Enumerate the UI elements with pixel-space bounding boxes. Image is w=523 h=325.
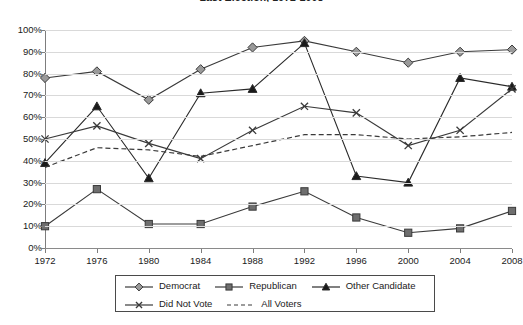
gridline — [45, 95, 512, 96]
x-axis-tick — [304, 249, 305, 253]
y-axis-tick — [40, 95, 45, 96]
x-axis-tick-label: 2004 — [440, 255, 480, 266]
gridline — [45, 139, 512, 140]
legend-triangle-marker-icon — [311, 279, 341, 291]
x-axis-tick-label: 1972 — [25, 255, 65, 266]
legend-row: Did Not VoteAll Voters — [116, 294, 434, 312]
gridline — [45, 183, 512, 184]
legend-label: Other Candidate — [346, 280, 416, 291]
series-democrat — [40, 36, 516, 104]
y-axis-tick-label: 60% — [2, 111, 42, 122]
gridline — [45, 248, 512, 249]
x-axis-tick — [201, 249, 202, 253]
y-axis-tick-label: 20% — [2, 198, 42, 209]
y-axis-labels: 100%90%80%70%60%50%40%30%20%10%0% — [0, 30, 42, 249]
y-axis-tick — [40, 204, 45, 205]
chart-container: Last Election, 1972-2008 100%90%80%70%60… — [0, 0, 523, 325]
x-axis-tick — [408, 249, 409, 253]
legend-item-other-candidate[interactable]: Other Candidate — [311, 279, 416, 291]
y-axis-tick-label: 50% — [2, 133, 42, 144]
series-did-not-vote — [41, 85, 515, 162]
y-axis-tick — [40, 117, 45, 118]
plot-area — [45, 30, 512, 248]
gridline — [45, 161, 512, 162]
y-axis-tick-label: 40% — [2, 155, 42, 166]
x-axis-tick-label: 1996 — [336, 255, 376, 266]
x-axis-tick-label: 2008 — [492, 255, 523, 266]
y-axis-tick-label: 70% — [2, 89, 42, 100]
series-other-candidate — [41, 39, 517, 186]
x-axis-tick-label: 1988 — [233, 255, 273, 266]
gridline — [45, 74, 512, 75]
legend-diamond-marker-icon — [124, 279, 154, 291]
y-axis-tick-label: 90% — [2, 46, 42, 57]
legend-item-democrat[interactable]: Democrat — [124, 279, 200, 291]
y-axis-tick — [40, 161, 45, 162]
legend-dashed-line-icon — [226, 297, 256, 309]
y-axis-tick-label: 30% — [2, 177, 42, 188]
series-all-voters — [45, 132, 512, 167]
y-axis-tick — [40, 183, 45, 184]
x-axis-tick — [97, 249, 98, 253]
x-axis-tick-label: 2000 — [388, 255, 428, 266]
y-axis-tick — [40, 226, 45, 227]
series-republican — [41, 186, 515, 237]
y-axis-tick — [40, 139, 45, 140]
gridline — [45, 117, 512, 118]
legend-item-did-not-vote[interactable]: Did Not Vote — [124, 297, 212, 309]
legend-label: Democrat — [159, 280, 200, 291]
x-axis-tick-label: 1980 — [129, 255, 169, 266]
gridline — [45, 52, 512, 53]
x-axis-tick — [253, 249, 254, 253]
y-axis-tick-label: 10% — [2, 220, 42, 231]
x-axis-tick — [45, 249, 46, 253]
y-axis-tick — [40, 248, 45, 249]
y-axis-tick-label: 80% — [2, 68, 42, 79]
gridline — [45, 204, 512, 205]
y-axis-tick — [40, 30, 45, 31]
y-axis-tick — [40, 74, 45, 75]
x-axis-tick — [149, 249, 150, 253]
legend-label: Republican — [249, 280, 297, 291]
legend-row: DemocratRepublicanOther Candidate — [116, 276, 434, 294]
y-axis-tick-label: 100% — [2, 24, 42, 35]
gridline — [45, 30, 512, 31]
legend-label: Did Not Vote — [159, 298, 212, 309]
gridline — [45, 226, 512, 227]
legend-x-marker-icon — [124, 297, 154, 309]
y-axis-tick-label: 0% — [2, 242, 42, 253]
x-axis-tick — [512, 249, 513, 253]
x-axis-tick — [460, 249, 461, 253]
legend-item-all-voters[interactable]: All Voters — [226, 297, 301, 309]
x-axis-tick — [356, 249, 357, 253]
x-axis-tick-label: 1976 — [77, 255, 117, 266]
x-axis-tick-label: 1984 — [181, 255, 221, 266]
chart-legend: DemocratRepublicanOther CandidateDid Not… — [115, 275, 435, 312]
chart-title: Last Election, 1972-2008 — [0, 0, 523, 2]
legend-item-republican[interactable]: Republican — [214, 279, 297, 291]
y-axis-tick — [40, 52, 45, 53]
x-axis-tick-label: 1992 — [284, 255, 324, 266]
legend-square-marker-icon — [214, 279, 244, 291]
legend-label: All Voters — [261, 298, 301, 309]
